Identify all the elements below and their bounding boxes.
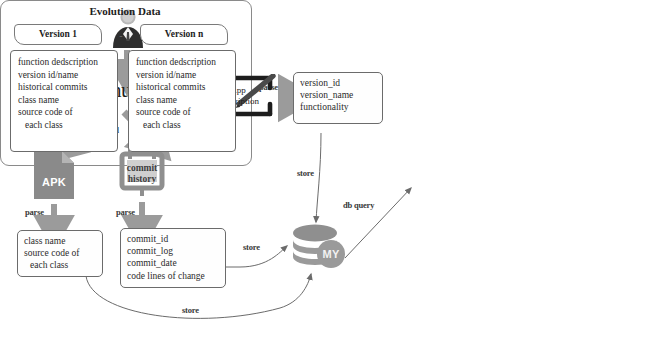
database-node: MY (290, 222, 346, 274)
class-info-box: class name source code of each class (17, 230, 103, 277)
version-metadata-line-1: version_name (300, 89, 377, 101)
commit-history-line2: history (119, 174, 165, 185)
version-n-line-3: class name (136, 94, 235, 107)
edge-label-parse-commits: parse (116, 207, 135, 217)
version-metadata-box: version_id version_name functionality (293, 72, 383, 124)
edge-label-store-commit: store (243, 242, 260, 252)
version-n-line-0: function dedscription (136, 56, 235, 69)
edge-store-version (316, 133, 321, 222)
edge-label-db-query: db query (343, 200, 374, 210)
commit-history-line1: commit (119, 163, 165, 174)
version-range-dash: - (112, 30, 130, 41)
version-1-line-5: each class (18, 119, 117, 132)
version-1-line-3: class name (18, 94, 117, 107)
version-1-line-2: historical commits (18, 81, 117, 94)
edge-label-store-class: store (182, 305, 199, 315)
database-label: MY (317, 240, 345, 268)
version-n-tag: Version n (140, 24, 228, 45)
version-n-line-1: version id/name (136, 69, 235, 82)
file-document-icon (33, 150, 75, 200)
version-n-line-4: source code of (136, 106, 235, 119)
apk-label: APK (33, 176, 75, 188)
apk-node: APK (33, 150, 75, 200)
commit-info-line-3: code lines of change (127, 270, 220, 282)
commit-info-box: commit_id commit_log commit_date code li… (120, 228, 226, 288)
version-n-line-2: historical commits (136, 81, 235, 94)
version-1-tag: Version 1 (14, 24, 102, 45)
edge-label-parse-apk: parse (25, 207, 44, 217)
version-n-line-5: each class (136, 119, 235, 132)
commit-history-node: commit history (116, 146, 168, 198)
commit-history-label: commit history (119, 163, 165, 184)
class-info-line-0: class name (24, 235, 97, 247)
version-metadata-line-0: version_id (300, 77, 377, 89)
edge-db-query (345, 188, 411, 258)
commit-info-line-0: commit_id (127, 233, 220, 245)
version-n-fields: function dedscription version id/name hi… (128, 50, 236, 152)
class-info-line-1: source code of (24, 247, 97, 259)
commit-info-line-2: commit_date (127, 257, 220, 269)
version-1-line-1: version id/name (18, 69, 117, 82)
commit-info-line-1: commit_log (127, 245, 220, 257)
version-metadata-line-2: functionality (300, 101, 377, 113)
version-1-line-4: source code of (18, 106, 117, 119)
version-1-line-0: function dedscription (18, 56, 117, 69)
evolution-data-title: Evolution Data (0, 5, 250, 17)
class-info-line-2: each class (24, 259, 97, 271)
diagram-canvas: crawl upload upload upload parse parse p… (0, 0, 671, 341)
version-1-fields: function dedscription version id/name hi… (10, 50, 118, 152)
edge-label-store-version: store (297, 168, 314, 178)
